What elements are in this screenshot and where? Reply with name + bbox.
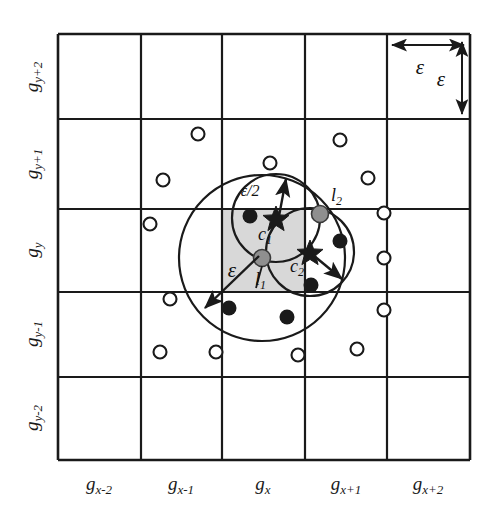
core-label-c2-sub: 2 xyxy=(298,265,304,279)
y-axis-label-4-sub: y-2 xyxy=(30,404,45,423)
open-point xyxy=(144,218,157,231)
y-axis-label-0-sub: y+2 xyxy=(30,61,45,85)
open-point xyxy=(157,174,170,187)
x-axis-label-2-base: g xyxy=(255,473,265,494)
y-axis-label-3-base: g xyxy=(21,338,42,348)
open-point xyxy=(378,252,391,265)
x-axis-label-4-base: g xyxy=(413,473,423,494)
y-axis-label-1-base: g xyxy=(21,170,42,180)
c2-radius-arrow xyxy=(313,255,342,279)
open-point xyxy=(164,293,177,306)
x-axis-label-0-sub: x-2 xyxy=(94,482,112,497)
diagram-canvas: ε ε xyxy=(0,0,495,515)
core-label-c1-base: c xyxy=(258,224,266,244)
y-axis-label-2-sub: y xyxy=(30,242,45,250)
x-axis-label-0-base: g xyxy=(86,473,96,494)
cell-height-epsilon-label: ε xyxy=(437,67,446,91)
epsilon-half-label: ε/2 xyxy=(241,182,260,199)
filled-point xyxy=(304,278,319,293)
x-axis-label-4-sub: x+2 xyxy=(421,482,444,497)
core-label-c1-sub: 1 xyxy=(266,233,272,247)
x-axis-label-2: gx xyxy=(255,473,271,497)
filled-point xyxy=(333,234,348,249)
x-axis-label-0: gx-2 xyxy=(86,473,113,497)
filled-point xyxy=(280,310,295,325)
x-axis-label-1-base: g xyxy=(168,473,178,494)
gray-point-l2 xyxy=(312,206,329,223)
point-label-l1-sub: 1 xyxy=(260,278,266,292)
x-axis-label-3: gx+1 xyxy=(331,473,362,497)
point-label-l2: l2 xyxy=(331,185,342,208)
x-axis-label-3-base: g xyxy=(331,473,341,494)
x-axis-label-2-sub: x xyxy=(264,482,271,497)
y-axis-label-1-sub: y+1 xyxy=(30,149,45,172)
epsilon-radius-label: ε xyxy=(228,258,237,282)
open-point xyxy=(264,157,277,170)
y-axis-label-3-sub: y-1 xyxy=(30,321,45,340)
y-axis-label-1: gy+1 xyxy=(21,149,45,180)
y-axis-label-2: gy xyxy=(21,242,45,258)
point-label-l2-sub: 2 xyxy=(336,194,342,208)
open-point xyxy=(378,207,391,220)
x-axis-label-1-sub: x-1 xyxy=(176,482,194,497)
x-axis-label-4: gx+2 xyxy=(413,473,444,497)
y-axis-label-2-base: g xyxy=(21,248,42,258)
y-axis-label-0: gy+2 xyxy=(21,61,45,92)
open-point xyxy=(192,128,205,141)
open-point xyxy=(362,172,375,185)
open-point xyxy=(351,343,364,356)
x-axis-label-1: gx-1 xyxy=(168,473,194,497)
filled-point xyxy=(222,301,237,316)
y-axis-label-3: gy-1 xyxy=(21,321,45,347)
x-axis-label-3-sub: x+1 xyxy=(339,482,361,497)
filled-point xyxy=(243,209,258,224)
core-label-c2-base: c xyxy=(290,256,298,276)
y-axis-label-0-base: g xyxy=(21,83,42,93)
open-point xyxy=(154,346,167,359)
cell-width-epsilon-label: ε xyxy=(416,55,425,79)
open-point xyxy=(292,349,305,362)
cell-size-annotation: ε ε xyxy=(392,42,464,114)
x-axis-labels: gx-2 gx-1 gx gx+1 gx+2 xyxy=(86,473,444,497)
y-axis-label-4-base: g xyxy=(21,422,42,432)
y-axis-label-4: gy-2 xyxy=(21,404,45,431)
open-point xyxy=(334,134,347,147)
figure-root: ε ε xyxy=(0,0,495,515)
y-axis-labels: gy+2 gy+1 gy gy-1 gy-2 xyxy=(21,61,45,431)
open-point xyxy=(210,346,223,359)
open-point xyxy=(378,304,391,317)
